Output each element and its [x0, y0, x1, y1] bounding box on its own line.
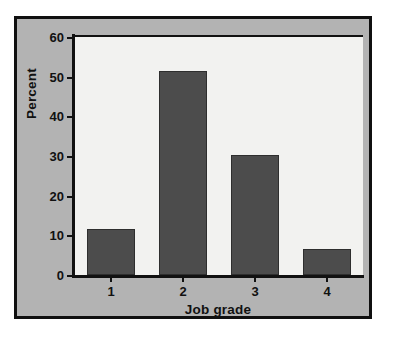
bar	[303, 249, 351, 275]
x-tick-mark	[326, 275, 328, 282]
y-tick-label: 40	[50, 110, 64, 123]
y-tick-mark	[67, 77, 75, 79]
x-tick-label: 3	[251, 285, 258, 298]
y-tick-label: 10	[50, 229, 64, 242]
y-tick-mark	[67, 37, 75, 39]
y-tick-label: 20	[50, 189, 64, 202]
y-tick-mark	[67, 235, 75, 237]
y-tick-label: 60	[50, 31, 64, 44]
y-tick-mark	[67, 156, 75, 158]
x-tick-mark	[254, 275, 256, 282]
y-tick-mark	[67, 196, 75, 198]
x-tick-label: 2	[179, 285, 186, 298]
y-axis-title: Percent	[24, 68, 39, 119]
figure: 0102030405060 1234 Job grade Percent	[0, 0, 394, 339]
bar	[87, 229, 135, 275]
chart-frame: 0102030405060 1234 Job grade Percent	[14, 16, 372, 319]
x-tick-label: 4	[323, 285, 330, 298]
y-tick-label: 0	[57, 269, 64, 282]
bar	[231, 155, 279, 275]
x-axis-title: Job grade	[73, 302, 363, 317]
x-tick-mark	[182, 275, 184, 282]
x-tick-mark	[110, 275, 112, 282]
x-tick-label: 1	[107, 285, 114, 298]
y-tick-mark	[67, 275, 75, 277]
x-axis-line	[72, 275, 364, 278]
plot-area: 0102030405060 1234	[73, 35, 363, 275]
y-tick-mark	[67, 116, 75, 118]
y-tick-label: 50	[50, 70, 64, 83]
bar	[159, 71, 207, 275]
y-tick-label: 30	[50, 150, 64, 163]
